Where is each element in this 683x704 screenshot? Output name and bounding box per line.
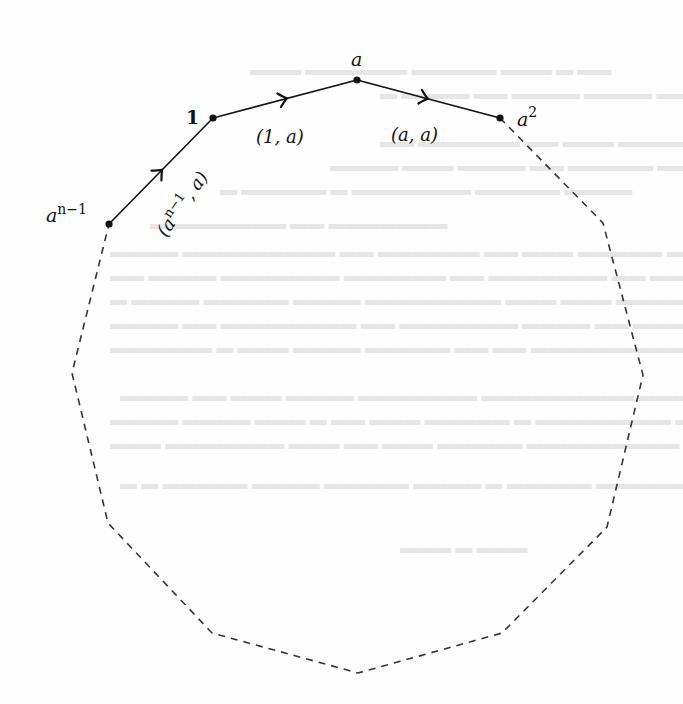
vertex-label-a-n-minus-1: an−1: [46, 201, 87, 226]
edge-label-1-a: (1, a): [256, 126, 304, 147]
vertex-a: [353, 76, 360, 83]
vertex-1: [209, 114, 216, 121]
vertex-a-squared: [496, 114, 503, 121]
cayley-graph-diagram: an−1 1 a a2 (1, a) (a, a) (an−1, a): [0, 0, 683, 704]
vertex-label-a-squared: a2: [517, 104, 537, 130]
vertex-label-1: 1: [186, 106, 199, 128]
edge-label-a-n-minus-1-a: (an−1, a): [150, 165, 212, 240]
edge-label-a-a: (a, a): [391, 124, 438, 145]
vertex-label-a: a: [351, 48, 362, 70]
figure-page: ▬▬▬ ▬▬▬▬▬▬ ▬▬▬▬▬ ▬▬▬ ▬ ▬▬ ▬ ▬▬▬▬ ▬▬ ▬▬▬▬…: [0, 0, 683, 704]
dashed-polygon-path: [72, 118, 643, 673]
vertex-a-n-minus-1: [105, 220, 112, 227]
